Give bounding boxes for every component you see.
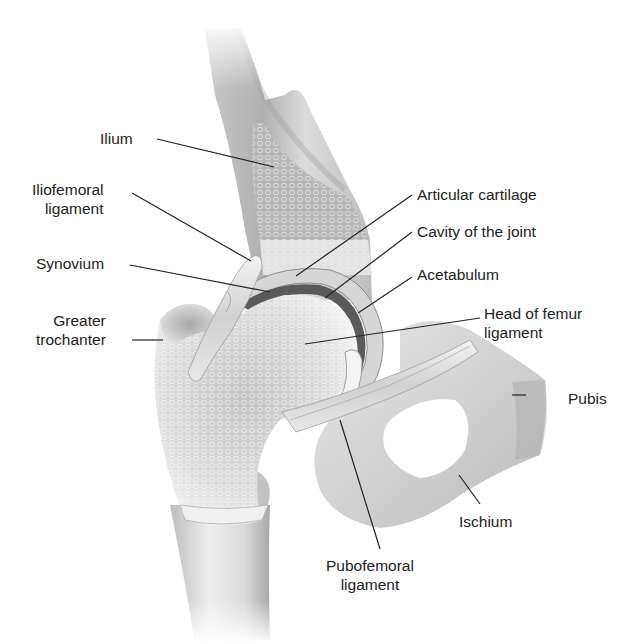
- leader-iliofemoral: [132, 193, 251, 261]
- label-ischium: Ischium: [459, 512, 512, 531]
- label-greater-trochanter: Greater trochanter: [36, 311, 106, 349]
- hip-joint-diagram: Ilium Iliofemoral ligament Synovium Grea…: [0, 0, 644, 644]
- label-iliofemoral-ligament: Iliofemoral ligament: [32, 180, 104, 218]
- label-ilium: Ilium: [100, 129, 133, 148]
- label-synovium: Synovium: [36, 254, 104, 273]
- label-pubofemoral-ligament: Pubofemoral ligament: [326, 556, 414, 594]
- label-head-of-femur-ligament: Head of femur ligament: [484, 304, 582, 342]
- label-acetabulum: Acetabulum: [417, 265, 499, 284]
- label-cavity-of-joint: Cavity of the joint: [417, 222, 536, 241]
- ilium-bone: [195, 20, 395, 300]
- label-articular-cartilage: Articular cartilage: [417, 185, 537, 204]
- label-pubis: Pubis: [568, 389, 607, 408]
